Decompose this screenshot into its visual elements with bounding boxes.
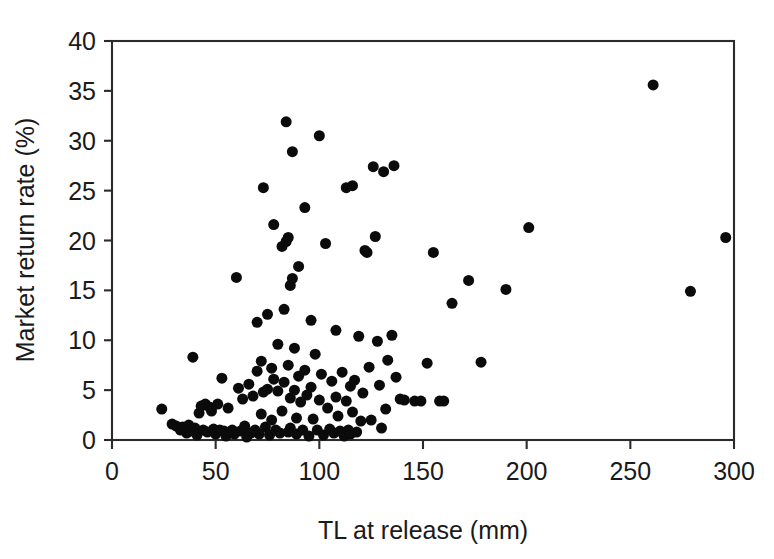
data-point xyxy=(283,232,294,243)
data-point xyxy=(306,382,317,393)
data-point xyxy=(287,146,298,157)
y-axis-ticks xyxy=(104,41,112,440)
data-point xyxy=(262,309,273,320)
x-axis-tick-labels: 050100150200250300 xyxy=(105,457,755,485)
data-point xyxy=(391,372,402,383)
y-tick-label-30: 30 xyxy=(68,127,96,155)
data-point xyxy=(266,415,277,426)
y-tick-label-5: 5 xyxy=(82,376,96,404)
data-point xyxy=(366,415,377,426)
data-point xyxy=(299,365,310,376)
data-point xyxy=(289,343,300,354)
data-point xyxy=(252,366,263,377)
x-tick-label-200: 200 xyxy=(506,457,548,485)
data-point xyxy=(156,404,167,415)
data-points-layer xyxy=(156,79,731,442)
data-point xyxy=(279,377,290,388)
x-tick-label-0: 0 xyxy=(105,457,119,485)
data-point xyxy=(291,413,302,424)
data-point xyxy=(648,79,659,90)
data-point xyxy=(428,247,439,258)
data-point xyxy=(223,403,234,414)
y-tick-label-10: 10 xyxy=(68,326,96,354)
data-point xyxy=(231,272,242,283)
data-point xyxy=(247,391,258,402)
data-point xyxy=(268,219,279,230)
data-point xyxy=(347,180,358,191)
data-point xyxy=(399,395,410,406)
data-point xyxy=(378,166,389,177)
data-point xyxy=(187,352,198,363)
data-point xyxy=(272,339,283,350)
data-point xyxy=(306,315,317,326)
data-point xyxy=(380,404,391,415)
data-point xyxy=(283,360,294,371)
data-point xyxy=(320,238,331,249)
data-point xyxy=(388,160,399,171)
data-point xyxy=(372,336,383,347)
y-tick-label-0: 0 xyxy=(82,426,96,454)
data-point xyxy=(376,423,387,434)
data-point xyxy=(243,379,254,390)
data-point xyxy=(287,273,298,284)
data-point xyxy=(256,356,267,367)
data-point xyxy=(500,284,511,295)
data-point xyxy=(258,182,269,193)
plot-frame xyxy=(112,41,734,440)
data-point xyxy=(308,414,319,425)
data-point xyxy=(386,330,397,341)
data-point xyxy=(252,317,263,328)
data-point xyxy=(332,411,343,422)
chart-canvas: 0510152025303540 050100150200250300 TL a… xyxy=(0,0,774,559)
data-point xyxy=(262,384,273,395)
data-point xyxy=(281,116,292,127)
data-point xyxy=(316,369,327,380)
data-point xyxy=(266,363,277,374)
data-point xyxy=(212,399,223,410)
data-point xyxy=(277,406,288,417)
data-point xyxy=(233,383,244,394)
y-axis-title: Market return rate (%) xyxy=(11,118,39,363)
data-point xyxy=(293,261,304,272)
x-axis-title: TL at release (mm) xyxy=(318,516,528,544)
data-point xyxy=(447,298,458,309)
data-point xyxy=(368,161,379,172)
x-axis-ticks xyxy=(112,440,734,449)
data-point xyxy=(272,386,283,397)
data-point xyxy=(364,362,375,373)
data-point xyxy=(237,394,248,405)
data-point xyxy=(279,304,290,315)
x-tick-label-300: 300 xyxy=(713,457,755,485)
data-point xyxy=(256,409,267,420)
y-tick-label-20: 20 xyxy=(68,227,96,255)
data-point xyxy=(351,427,362,438)
data-point xyxy=(347,407,358,418)
data-point xyxy=(299,202,310,213)
x-tick-label-150: 150 xyxy=(402,457,444,485)
data-point xyxy=(382,355,393,366)
data-point xyxy=(337,367,348,378)
y-tick-label-40: 40 xyxy=(68,27,96,55)
data-point xyxy=(370,231,381,242)
y-tick-label-25: 25 xyxy=(68,177,96,205)
data-point xyxy=(357,388,368,399)
data-point xyxy=(322,403,333,414)
data-point xyxy=(362,247,373,258)
x-tick-label-100: 100 xyxy=(298,457,340,485)
y-axis-tick-labels: 0510152025303540 xyxy=(68,27,96,454)
data-point xyxy=(415,396,426,407)
data-point xyxy=(523,222,534,233)
data-point xyxy=(353,331,364,342)
data-point xyxy=(330,325,341,336)
data-point xyxy=(422,358,433,369)
data-point xyxy=(268,374,279,385)
data-point xyxy=(314,395,325,406)
data-point xyxy=(349,375,360,386)
data-point xyxy=(438,396,449,407)
data-point xyxy=(341,396,352,407)
y-tick-label-35: 35 xyxy=(68,77,96,105)
scatter-plot-figure: 0510152025303540 050100150200250300 TL a… xyxy=(0,0,774,559)
data-point xyxy=(476,357,487,368)
data-point xyxy=(685,286,696,297)
data-point xyxy=(289,385,300,396)
